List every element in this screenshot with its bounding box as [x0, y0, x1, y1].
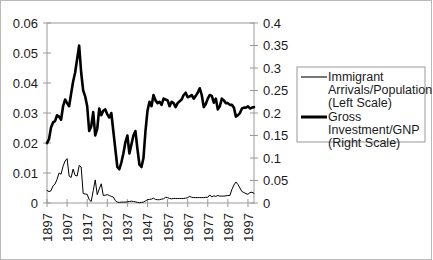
x-axis-tick-label: 1937 — [120, 213, 135, 242]
left-axis-tick-label: 0.03 — [13, 106, 38, 121]
x-axis-tick-label: 1947 — [140, 213, 155, 242]
x-axis-tick-label: 1997 — [241, 213, 256, 242]
left-axis-tick-labels: 00.010.020.030.040.050.06 — [13, 16, 38, 211]
legend-label-line: Investment/GNP — [328, 123, 420, 137]
left-axis-tick-label: 0.04 — [13, 76, 38, 91]
x-axis-tick-label: 1967 — [181, 213, 196, 242]
x-axis-tick-label: 1907 — [60, 213, 75, 242]
x-axis-tick-label: 1977 — [201, 213, 216, 242]
legend-label-line: Gross — [328, 110, 361, 124]
legend-label-line: Immigrant — [328, 70, 384, 84]
right-axis-tick-label: 0.35 — [263, 38, 288, 53]
right-axis-tick-label: 0.3 — [263, 61, 281, 76]
x-axis-tick-label: 1927 — [100, 213, 115, 242]
right-axis-tick-label: 0.05 — [263, 173, 288, 188]
data-series-layer — [47, 46, 254, 203]
x-axis-tick-label: 1917 — [80, 213, 95, 242]
left-axis-tick-label: 0 — [31, 196, 38, 211]
legend-label-line: (Left Scale) — [328, 96, 392, 110]
axis-tickmarks — [43, 23, 258, 207]
left-axis-tick-label: 0.02 — [13, 136, 38, 151]
legend-label-line: Arrivals/Population — [328, 83, 432, 97]
right-axis-tick-label: 0.15 — [263, 128, 288, 143]
series-line-immigrant-arrivals-population — [47, 159, 254, 203]
left-axis-tick-label: 0.01 — [13, 166, 38, 181]
x-axis-tick-label: 1987 — [221, 213, 236, 242]
right-axis-tick-label: 0.25 — [263, 83, 288, 98]
chart-canvas: 00.010.020.030.040.050.06 00.050.10.150.… — [1, 1, 433, 260]
x-axis-tick-label: 1957 — [161, 213, 176, 242]
legend-label-line: (Right Scale) — [328, 136, 400, 150]
left-axis-tick-label: 0.06 — [13, 16, 38, 31]
right-axis-tick-label: 0 — [263, 196, 270, 211]
x-axis-tick-labels: 1897190719171927193719471957196719771987… — [40, 213, 256, 242]
right-axis-tick-label: 0.4 — [263, 16, 281, 31]
series-line-gross-investment-gnp — [47, 46, 254, 170]
left-axis-tick-label: 0.05 — [13, 46, 38, 61]
right-axis-tick-label: 0.2 — [263, 106, 281, 121]
chart-legend: ImmigrantArrivals/Population(Left Scale)… — [297, 67, 432, 150]
x-axis-tick-label: 1897 — [40, 213, 55, 242]
right-axis-tick-label: 0.1 — [263, 151, 281, 166]
right-axis-tick-labels: 00.050.10.150.20.250.30.350.4 — [263, 16, 288, 211]
